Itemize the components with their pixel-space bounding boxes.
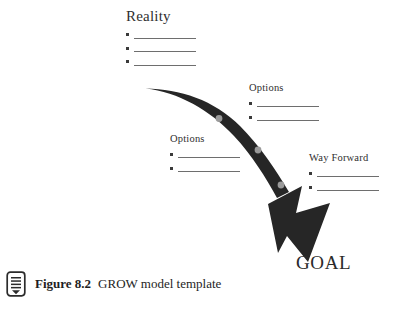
reality-bullet-1[interactable] — [126, 33, 196, 39]
way-forward-blank-line-2[interactable] — [317, 190, 379, 191]
bullet-dot-icon — [249, 102, 252, 105]
way-forward-bullet-2[interactable] — [309, 186, 379, 191]
options-lower-left-title: Options — [170, 133, 240, 144]
way-forward-bullet-1[interactable] — [309, 172, 379, 177]
reality-bullet-2[interactable] — [126, 47, 196, 53]
options-upper-right-title: Options — [249, 82, 319, 93]
options-lower-left-blank-line-2[interactable] — [178, 171, 240, 172]
bullet-dot-icon — [249, 116, 252, 119]
options-upper-right-block: Options — [249, 82, 319, 121]
bullet-dot-icon — [309, 186, 312, 189]
bullet-dot-icon — [126, 33, 129, 36]
options-upper-right-blank-line-1[interactable] — [257, 106, 319, 107]
way-forward-title: Way Forward — [309, 152, 379, 163]
reality-bullet-3[interactable] — [126, 60, 196, 66]
options-lower-left-bullet-2[interactable] — [170, 167, 240, 172]
reality-blank-line-1[interactable] — [134, 38, 196, 39]
options-lower-left-blank-line-1[interactable] — [178, 157, 240, 158]
options-upper-right-blank-line-2[interactable] — [257, 120, 319, 121]
way-forward-blank-line-1[interactable] — [317, 176, 379, 177]
options-lower-left-block: Options — [170, 133, 240, 172]
options-lower-left-bullet-1[interactable] — [170, 153, 240, 158]
caption-text: Figure 8.2GROW model template — [35, 276, 221, 292]
bullet-dot-icon — [126, 47, 129, 50]
caption-title: GROW model template — [98, 276, 221, 291]
way-forward-block: Way Forward — [309, 152, 379, 191]
bullet-dot-icon — [170, 167, 173, 170]
options-upper-right-bullet-2[interactable] — [249, 116, 319, 121]
reality-blank-line-3[interactable] — [134, 65, 196, 66]
bullet-dot-icon — [309, 172, 312, 175]
reality-title: Reality — [126, 8, 196, 25]
reality-blank-line-2[interactable] — [134, 51, 196, 52]
caption-figure-number: Figure 8.2 — [35, 276, 91, 291]
milestone-marker-3 — [278, 182, 285, 189]
figure-caption: Figure 8.2GROW model template — [0, 271, 221, 297]
bullet-dot-icon — [170, 153, 173, 156]
milestone-marker-2 — [255, 147, 262, 154]
figure-page: Reality Options Options — [0, 0, 395, 311]
bullet-dot-icon — [126, 60, 129, 63]
reality-block: Reality — [126, 8, 196, 66]
goal-label: GOAL — [296, 252, 351, 274]
milestone-marker-1 — [216, 115, 223, 122]
options-upper-right-bullet-1[interactable] — [249, 102, 319, 107]
document-lines-icon — [6, 271, 26, 297]
